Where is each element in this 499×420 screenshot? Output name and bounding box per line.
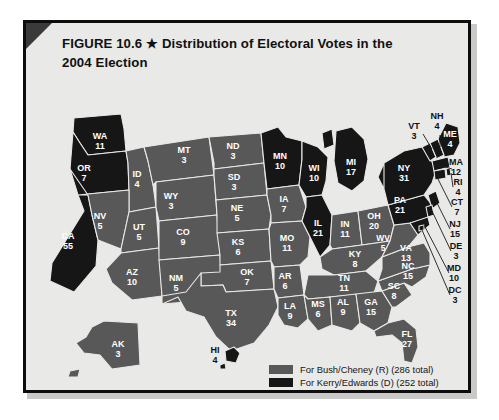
label-WY-votes: 3 [168,201,173,211]
label-MI-code: MI [346,157,356,167]
legend-label-kerry: For Kerry/Edwards (D) (252 total) [300,377,439,388]
label-MD-code: MD [447,263,461,273]
folded-corner-decoration [26,23,52,49]
label-MO-code: MO [280,233,295,243]
label-NV-code: NV [94,211,107,221]
label-NY-code: NY [398,163,411,173]
label-PA-code: PA [394,195,406,205]
label-WI-code: WI [309,163,320,173]
label-IN-votes: 11 [340,229,350,239]
label-LA-votes: 9 [287,311,292,321]
label-WA-votes: 11 [95,141,105,151]
label-AL-votes: 9 [340,307,345,317]
label-AR-code: AR [279,271,292,281]
label-OH-code: OH [367,211,381,221]
label-KS-votes: 6 [235,247,240,257]
label-CA-code: CA [62,231,75,241]
label-GA-votes: 15 [366,307,376,317]
state-AR [274,265,304,298]
label-NM-code: NM [169,273,183,283]
label-CT-code: CT [451,197,463,207]
label-DE-votes: 3 [453,251,458,261]
label-OK-code: OK [240,267,254,277]
state-KS [217,229,271,265]
label-TX-votes: 34 [226,318,236,328]
label-AR-votes: 6 [282,281,287,291]
label-NJ-code: NJ [449,219,461,229]
label-HI-code: HI [211,345,220,355]
state-HI [220,347,240,369]
label-DC-votes: 3 [452,295,457,305]
label-WV-code: WV [376,233,390,243]
label-NC-votes: 15 [403,271,413,281]
label-VT-votes: 3 [411,131,416,141]
label-NV-votes: 5 [97,221,102,231]
electoral-map: .st{stroke:#e9e9e7;stroke-width:1.1;stro… [26,85,468,390]
state-LA [278,295,308,328]
label-IL-votes: 21 [313,228,323,238]
label-OH-votes: 20 [369,221,379,231]
state-CO [159,215,220,260]
label-CO-code: CO [176,227,190,237]
legend-item-bush: For Bush/Cheney (R) (286 total) [269,364,479,375]
label-ME-votes: 4 [447,139,452,149]
label-MO-votes: 11 [282,243,292,253]
label-TN-code: TN [338,273,350,283]
figure-title-line2: 2004 Election [62,55,148,70]
label-CT-votes: 7 [454,207,459,217]
label-ID-code: ID [133,169,143,179]
label-AZ-votes: 10 [127,277,137,287]
map-legend: For Bush/Cheney (R) (286 total) For Kerr… [269,364,479,390]
label-VT-code: VT [408,121,420,131]
label-OR-code: OR [77,163,91,173]
label-MD-votes: 10 [449,273,459,283]
label-SD-votes: 3 [231,182,236,192]
label-ND-code: ND [227,141,240,151]
label-IA-code: IA [280,194,290,204]
legend-swatch-bush [269,365,293,374]
label-UT-code: UT [133,222,145,232]
label-AK-code: AK [112,339,125,349]
label-KS-code: KS [232,237,245,247]
label-TN-votes: 11 [339,283,349,293]
label-CO-votes: 9 [180,237,185,247]
state-NE [216,195,271,233]
label-MA-code: MA [449,157,463,167]
label-VA-votes: 13 [401,253,411,263]
label-IA-votes: 7 [281,204,286,214]
state-DE [426,205,434,217]
figure-title-line1: FIGURE 10.6 ★ Distribution of Electoral … [62,36,393,51]
label-RI-votes: 4 [455,187,460,197]
label-MS-code: MS [311,299,325,309]
label-FL-votes: 27 [402,339,412,349]
figure-page: FIGURE 10.6 ★ Distribution of Electoral … [0,0,499,420]
label-NE-votes: 5 [234,213,239,223]
label-ND-votes: 3 [230,151,235,161]
page-title: FIGURE 10.6 ★ Distribution of Electoral … [62,35,452,72]
label-MN-code: MN [273,151,287,161]
label-OK-votes: 7 [244,277,249,287]
state-MI [322,127,368,191]
label-PA-votes: 21 [395,205,405,215]
legend-swatch-kerry [269,378,293,387]
figure-frame: FIGURE 10.6 ★ Distribution of Electoral … [23,20,471,393]
label-MA-votes: 12 [451,167,461,177]
label-AL-code: AL [337,297,349,307]
us-map-svg: .st{stroke:#e9e9e7;stroke-width:1.1;stro… [26,85,468,390]
label-TX-code: TX [225,308,237,318]
label-NJ-votes: 15 [450,229,460,239]
label-MS-votes: 6 [315,309,320,319]
label-AZ-code: AZ [126,267,138,277]
label-WV-votes: 5 [381,243,386,253]
label-NY-votes: 31 [399,173,409,183]
label-RI-code: RI [454,177,463,187]
label-KY-votes: 8 [352,259,357,269]
state-SD [214,163,267,200]
label-NH-votes: 4 [434,121,439,131]
label-NM-votes: 5 [173,283,178,293]
label-OR-votes: 7 [81,173,86,183]
label-CA-votes: 55 [63,241,73,251]
label-HI-votes: 4 [212,355,217,365]
state-DC [419,225,424,231]
label-WI-votes: 10 [309,173,319,183]
